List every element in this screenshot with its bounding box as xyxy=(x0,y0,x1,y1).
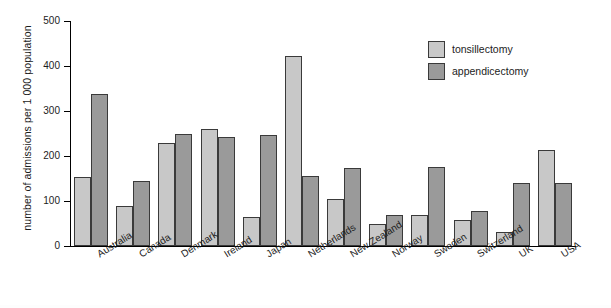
bar-group xyxy=(201,21,235,246)
bar-appendicectomy xyxy=(555,183,572,246)
scan-edge-top xyxy=(0,0,611,2)
bar-group xyxy=(243,21,277,246)
y-tick-label: 400 xyxy=(26,60,60,71)
legend-swatch-icon xyxy=(428,63,445,80)
y-tick-label: 300 xyxy=(26,105,60,116)
x-axis-label: UK xyxy=(517,250,523,259)
x-axis-label: Australia xyxy=(95,250,101,259)
bar-chart: number of admissions per 1 000 populatio… xyxy=(0,0,611,308)
x-axis-label: Switzerland xyxy=(475,250,481,259)
y-tick-label: 100 xyxy=(26,195,60,206)
bar-group xyxy=(327,21,361,246)
x-axis-label: New Zealand xyxy=(348,250,354,259)
bar-tonsillectomy xyxy=(285,56,302,246)
bar-group xyxy=(369,21,403,246)
x-axis-label: Japan xyxy=(264,250,270,259)
x-axis-label: USA xyxy=(559,250,565,259)
bar-group xyxy=(74,21,108,246)
bar-group xyxy=(116,21,150,246)
bar-appendicectomy xyxy=(91,94,108,246)
bar-group xyxy=(538,21,572,246)
bar-appendicectomy xyxy=(260,135,277,246)
bar-tonsillectomy xyxy=(74,177,91,246)
x-axis-label: Netherlands xyxy=(306,250,312,259)
x-axis-label: Canada xyxy=(137,250,143,259)
bar-appendicectomy xyxy=(175,134,192,247)
legend-swatch-icon xyxy=(428,41,445,58)
x-axis-label: Ireland xyxy=(222,250,228,259)
legend-label: appendicectomy xyxy=(452,65,528,77)
y-axis-title: number of admissions per 1 000 populatio… xyxy=(21,8,33,248)
chart-legend: tonsillectomyappendicectomy xyxy=(428,38,528,82)
bar-appendicectomy xyxy=(302,176,319,246)
bar-appendicectomy xyxy=(218,137,235,246)
legend-label: tonsillectomy xyxy=(452,43,513,55)
y-tick-label: 200 xyxy=(26,150,60,161)
legend-item[interactable]: tonsillectomy xyxy=(428,38,528,60)
bar-tonsillectomy xyxy=(158,143,175,247)
bar-group xyxy=(285,21,319,246)
y-tick-label: 500 xyxy=(26,15,60,26)
bar-group xyxy=(158,21,192,246)
x-axis-label: Sweden xyxy=(432,250,438,259)
y-tick-label: 0 xyxy=(26,240,60,251)
bar-appendicectomy xyxy=(428,167,445,246)
bar-tonsillectomy xyxy=(201,129,218,246)
bar-appendicectomy xyxy=(133,181,150,246)
x-axis-label: Denmark xyxy=(179,250,185,259)
x-axis-label: Norway xyxy=(390,250,396,259)
legend-item[interactable]: appendicectomy xyxy=(428,60,528,82)
bar-tonsillectomy xyxy=(538,150,555,246)
bar-appendicectomy xyxy=(471,211,488,246)
